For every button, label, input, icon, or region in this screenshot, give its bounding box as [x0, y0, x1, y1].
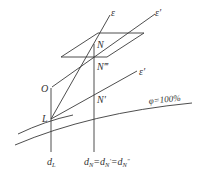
label-N-triple-prime: N‴ — [96, 61, 109, 72]
label-epsilon: ε — [111, 7, 115, 18]
label-phi-100: φ=100% — [148, 93, 181, 106]
label-L: L — [41, 113, 48, 124]
label-dL: dL — [47, 156, 56, 168]
psychrometric-diagram: ε ε′ ε′ N N‴ N′ O L φ=100% dL dN=dN′=dN″ — [0, 0, 203, 179]
label-epsilon-prime-upper: ε′ — [155, 7, 162, 18]
label-N: N — [96, 39, 105, 50]
label-N-prime: N′ — [96, 94, 107, 105]
label-epsilon-prime-lower: ε′ — [139, 66, 146, 77]
label-O: O — [41, 83, 48, 94]
label-dN-equality: dN=dN′=dN″ — [84, 156, 130, 168]
